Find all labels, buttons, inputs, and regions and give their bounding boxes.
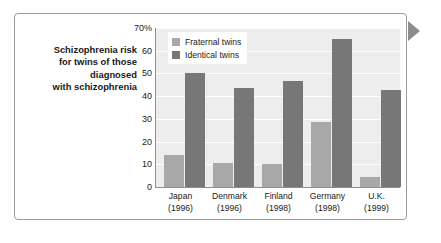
x-axis-tick-label: U.K.(1999)	[346, 191, 408, 214]
x-axis: Japan(1996)Denmark(1996)Finland(1998)Ger…	[155, 191, 400, 217]
y-axis: 010203040506070%	[108, 28, 152, 188]
y-axis-tick-label: 0	[112, 183, 152, 192]
bar-group	[164, 28, 205, 187]
y-axis-tick-label: 10	[112, 160, 152, 169]
y-axis-tick-label: 20	[112, 138, 152, 147]
bar-identical	[283, 81, 303, 187]
y-axis-tick-label: 40	[112, 92, 152, 101]
bar-fraternal	[164, 155, 184, 187]
bar-identical	[381, 90, 401, 187]
bar-fraternal	[311, 122, 331, 187]
bar-identical	[185, 73, 205, 187]
right-arrow-marker-icon	[408, 21, 420, 41]
bar-identical	[332, 39, 352, 187]
bar-group	[311, 28, 352, 187]
bar-fraternal	[262, 164, 282, 187]
bar-group	[213, 28, 254, 187]
x-label-year: (1999)	[346, 203, 408, 215]
y-axis-tick-label: 70%	[112, 24, 152, 33]
bar-fraternal	[360, 177, 380, 187]
y-axis-tick-label: 50	[112, 69, 152, 78]
x-label-country: U.K.	[346, 191, 408, 203]
bar-identical	[234, 88, 254, 187]
plot-wrapper: Fraternal twins Identical twins	[155, 28, 400, 188]
bar-fraternal	[213, 163, 233, 187]
bar-group	[262, 28, 303, 187]
bar-group	[360, 28, 401, 187]
y-axis-tick-label: 30	[112, 115, 152, 124]
y-axis-tick-label: 60	[112, 47, 152, 56]
chart-figure: Schizophrenia risk for twins of those di…	[0, 0, 441, 243]
